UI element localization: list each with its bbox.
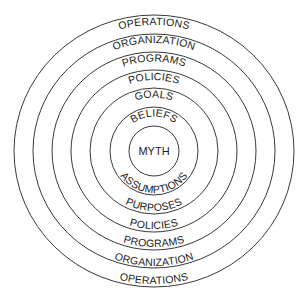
- ring-5-bottom-label: ORGANIZATION: [113, 250, 194, 268]
- ring-6-bottom-label: OPERATIONS: [119, 270, 189, 286]
- ring-2-top-label: GOALS: [133, 87, 175, 102]
- ring-3-bottom-label: POLICIES: [129, 216, 179, 231]
- bottom-labels: ASSUMPTIONS PURPOSES POLICIES PROGRAMS O…: [113, 169, 194, 286]
- concentric-ring-diagram: MYTH BELIEFS GOALS POLICIES PROGRAMS ORG…: [0, 0, 308, 301]
- ring-4-bottom-label: PROGRAMS: [123, 233, 186, 249]
- core-label: MYTH: [138, 145, 169, 157]
- ring-1-bottom-label: ASSUMPTIONS: [118, 169, 189, 195]
- ring-5-top-label: ORGANIZATION: [111, 33, 197, 52]
- ring-6-top-label: OPERATIONS: [117, 15, 191, 32]
- ring-3-top-label: POLICIES: [127, 70, 182, 86]
- ring-4-top-label: PROGRAMS: [120, 51, 188, 68]
- ring-1-top-label: BELIEFS: [128, 106, 180, 125]
